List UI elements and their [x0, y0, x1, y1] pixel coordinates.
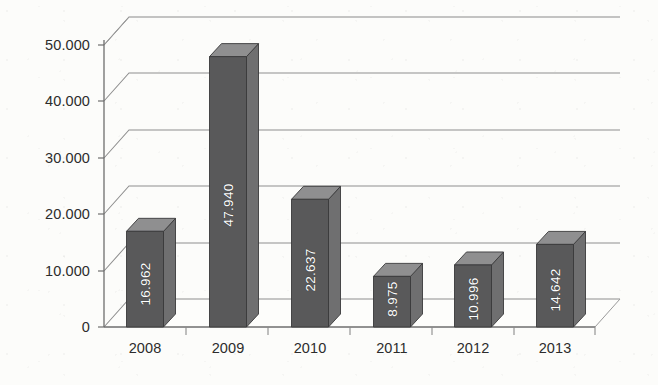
bar-front-face-2010	[292, 199, 329, 327]
bar-2011	[374, 263, 423, 327]
x-axis-label-2009: 2009	[212, 340, 245, 356]
bar-side-face-2013	[574, 231, 586, 327]
bar-side-face-2009	[247, 44, 259, 327]
y-axis-label-0: 0	[18, 319, 90, 335]
gridline-30000	[104, 130, 620, 158]
gridline-40000	[104, 73, 620, 101]
x-axis-label-2010: 2010	[294, 340, 327, 356]
chart-3d-walls	[104, 17, 620, 45]
bar-2012	[455, 252, 504, 327]
gridline-riser-50000	[104, 17, 129, 45]
x-axis-label-2008: 2008	[129, 340, 162, 356]
gridline-20000	[104, 186, 620, 214]
bar-front-face-2009	[210, 57, 247, 327]
y-axis-label-50000: 50.000	[18, 37, 90, 53]
y-axis-label-20000: 20.000	[18, 206, 90, 222]
bar-front-face-2012	[455, 265, 492, 327]
bar-2013	[537, 231, 586, 327]
chart-plot-area	[0, 0, 658, 385]
chart-gridlines	[104, 17, 620, 271]
bar-front-face-2011	[374, 276, 411, 327]
x-axis-label-2012: 2012	[457, 340, 490, 356]
bar-front-face-2008	[127, 231, 164, 327]
chart-bars	[127, 44, 586, 327]
bar-2009	[210, 44, 259, 327]
bar-chart-figure: 50.000 40.000 30.000 20.000 10.000 0 200…	[0, 0, 658, 385]
x-axis-label-2013: 2013	[539, 340, 572, 356]
bar-side-face-2008	[164, 218, 176, 327]
bar-side-face-2010	[329, 186, 341, 327]
x-axis-label-2011: 2011	[376, 340, 408, 356]
bar-front-face-2013	[537, 244, 574, 327]
y-axis-label-40000: 40.000	[18, 93, 90, 109]
wall-top-edge	[104, 17, 620, 45]
y-axis-label-30000: 30.000	[18, 150, 90, 166]
y-axis-label-10000: 10.000	[18, 263, 90, 279]
bar-2008	[127, 218, 176, 327]
bar-2010	[292, 186, 341, 327]
